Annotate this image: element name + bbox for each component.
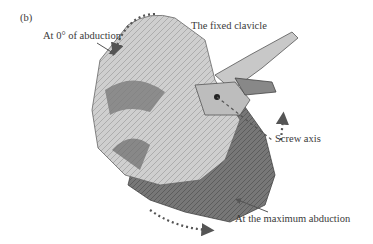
label-screw-axis: Screw axis	[275, 133, 321, 144]
label-max-abduction: At the maximum abduction	[235, 213, 350, 224]
label-zero-abduction: At 0° of abduction	[43, 30, 121, 41]
label-fixed-clavicle: The fixed clavicle	[191, 20, 267, 31]
panel-label: (b)	[20, 12, 32, 23]
